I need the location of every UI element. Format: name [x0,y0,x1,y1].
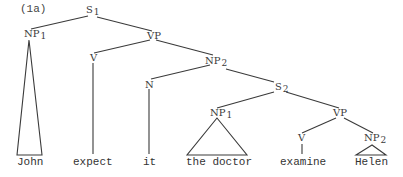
node-label: VP [147,30,161,41]
edge-s1-vp [97,17,152,31]
leaf-it: it [143,157,156,168]
node-label: V [90,52,97,63]
node-label: N [145,79,154,90]
node-v-low: V [298,133,305,143]
edge-vp-np2-low [344,118,373,133]
edge-vp-v-low [302,118,336,133]
triangle-np1-the-doctor [187,118,247,155]
leaf-examine: examine [280,157,326,168]
edge-s1-np1 [31,16,88,29]
edge-np2-s2 [226,69,274,82]
node-np1-low: NP1 [210,108,232,118]
leaf-expect: expect [73,157,113,168]
node-subscript: 2 [221,58,227,68]
leaf-helen: Helen [355,157,388,168]
node-np2-low: NP2 [364,133,386,143]
node-label: NP [210,107,225,118]
edge-vp-v [94,40,150,53]
node-label: NP [205,55,220,66]
node-subscript: 1 [40,31,46,41]
leaf-john: John [17,157,43,168]
node-label: NP [24,28,39,39]
leaf-the-doctor: the doctor [186,157,252,168]
node-label: S [275,81,282,92]
edge-np2-n [151,65,210,79]
edge-s2-vp [286,92,339,108]
node-s2: S2 [275,82,289,92]
triangle-np2-helen [356,145,386,155]
node-label: V [298,132,305,143]
node-label: S [86,4,93,15]
node-vp-top: VP [147,31,161,41]
node-np1-top: NP1 [24,29,46,39]
node-v-top: V [90,53,97,63]
syntax-tree-diagram: (1a) S1 NP1 VP V NP2 N S2 NP1 VP V NP2 J… [0,0,403,177]
node-vp-low: VP [333,108,347,118]
node-subscript: 1 [226,110,232,120]
example-number: (1a) [20,4,46,15]
node-label: VP [333,107,347,118]
edge-vp-np2 [156,40,213,55]
node-np2-mid: NP2 [205,56,227,66]
node-s1: S1 [86,5,100,15]
tree-edges [0,0,403,177]
node-subscript: 2 [283,84,289,94]
edge-s2-np1 [217,92,274,108]
node-subscript: 1 [94,7,100,17]
triangle-np1-john [17,40,42,155]
node-n: N [145,80,154,90]
node-label: NP [364,132,379,143]
node-subscript: 2 [380,135,386,145]
